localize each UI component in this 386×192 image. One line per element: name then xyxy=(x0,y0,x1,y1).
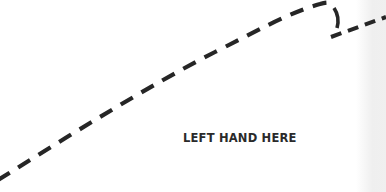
hand-outline-dashed-line xyxy=(0,0,386,192)
hand-outline-main-curve xyxy=(0,3,333,181)
hand-outline-knuckle-curve xyxy=(334,8,338,28)
left-hand-here-label: LEFT HAND HERE xyxy=(183,131,297,145)
document-page: LEFT HAND HERE xyxy=(0,0,386,192)
